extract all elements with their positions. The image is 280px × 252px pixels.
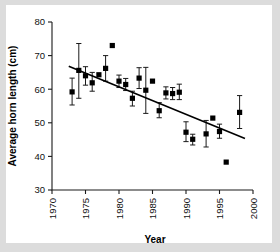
data-point-marker [210,115,215,120]
error-bars [70,44,243,147]
data-point-marker [163,90,168,95]
data-point-marker [224,160,229,165]
data-point-marker [177,90,182,95]
x-tick-label: 1970 [47,198,58,219]
trend-line [69,66,245,138]
x-tick-labels: 1970197519801985199019952000 [47,198,259,219]
data-point-marker [217,129,222,134]
data-point-marker [116,79,121,84]
data-point-marker [123,82,128,87]
y-tick-label: 40 [34,151,45,162]
data-point-marker [83,73,88,78]
data-point-marker [137,76,142,81]
x-tick-label: 1975 [80,198,91,219]
y-tick-label: 50 [34,117,45,128]
y-tick-label: 30 [34,184,45,195]
data-point-marker [237,110,242,115]
data-point-marker [130,96,135,101]
figure-container: 304050607080 197019751980198519901995200… [0,0,280,252]
x-tick-label: 1985 [147,198,158,219]
data-point-marker [76,68,81,73]
data-point-marker [143,88,148,93]
x-tick-label: 1980 [114,198,125,219]
data-point-marker [110,43,115,48]
data-markers [70,43,243,165]
data-point-marker [183,130,188,135]
x-tick-label: 1995 [214,198,225,219]
x-tick-label: 2000 [248,198,259,219]
y-tick-label: 60 [34,84,45,95]
data-point-marker [70,89,75,94]
data-point-marker [150,79,155,84]
data-point-marker [90,80,95,85]
data-point-marker [204,131,209,136]
y-tick-labels: 304050607080 [34,16,45,195]
y-tick-label: 80 [34,16,45,27]
scatter-plot: 304050607080 197019751980198519901995200… [0,0,280,252]
data-point-marker [103,66,108,71]
data-point-marker [190,137,195,142]
data-point-marker [157,108,162,113]
data-point-marker [96,72,101,77]
data-point-marker [170,91,175,96]
y-tick-label: 70 [34,50,45,61]
x-axis-title: Year [144,234,165,245]
x-tick-label: 1990 [181,198,192,219]
y-axis-title: Average horn length (cm) [7,46,18,167]
axes [52,22,253,190]
